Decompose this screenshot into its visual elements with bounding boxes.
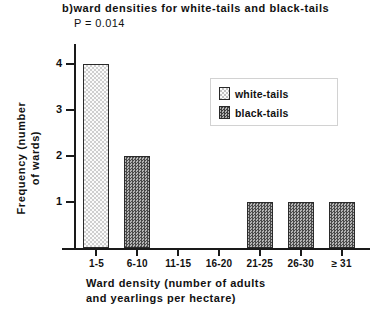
legend-swatch-black-tails-icon <box>219 106 230 119</box>
x-axis-tick <box>177 250 179 256</box>
legend-item-white-tails: white-tails <box>219 84 337 103</box>
x-axis-tick <box>259 250 261 256</box>
bars-layer <box>0 46 390 248</box>
bar-15 <box>83 64 109 248</box>
x-axis-title-line2: and yearlings per hectare) <box>86 291 376 306</box>
x-axis-tick <box>136 250 138 256</box>
x-axis-tick-label: ≥ 31 <box>314 258 370 269</box>
bar-2630 <box>288 202 314 248</box>
legend-label-black-tails: black-tails <box>235 107 289 119</box>
legend-item-black-tails: black-tails <box>219 103 337 122</box>
legend-swatch-white-tails-icon <box>219 87 230 100</box>
x-axis-line <box>62 248 370 250</box>
bar-610 <box>124 156 150 248</box>
x-axis-tick <box>95 250 97 256</box>
legend-label-white-tails: white-tails <box>235 88 289 100</box>
legend-box: white-tails black-tails <box>210 78 338 126</box>
x-axis-title-line1: Ward density (number of adults <box>86 276 376 291</box>
x-axis-title: Ward density (number of adults and yearl… <box>86 276 376 306</box>
chart-title: b)ward densities for white-tails and bla… <box>62 2 329 14</box>
p-value-annotation: P = 0.014 <box>74 17 125 29</box>
x-axis-tick <box>341 250 343 256</box>
figure-panel: b)ward densities for white-tails and bla… <box>0 0 390 320</box>
x-axis-tick <box>300 250 302 256</box>
bar-31 <box>329 202 355 248</box>
bar-2125 <box>247 202 273 248</box>
x-axis-tick <box>218 250 220 256</box>
